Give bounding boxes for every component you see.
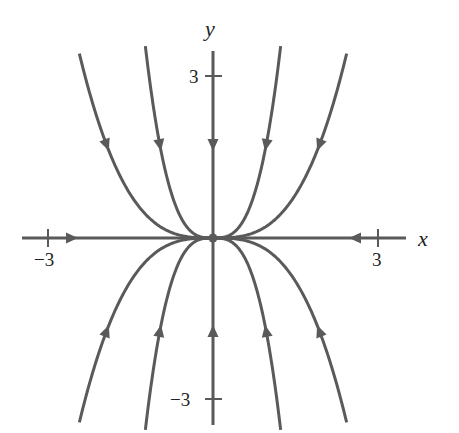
x-tick-label-neg3: −3: [34, 249, 54, 270]
x-axis-label: x: [417, 226, 428, 251]
y-tick-label-neg3: −3: [170, 389, 190, 410]
x-tick-label-pos3: 3: [372, 249, 382, 270]
y-tick-label-pos3: 3: [189, 66, 199, 87]
x-axis-right-arrow-icon: [66, 233, 78, 244]
phase-portrait-chart: y x −3 3 3 −3: [0, 0, 459, 433]
direction-arrow-icon: [262, 138, 273, 151]
axes: [22, 51, 406, 425]
trajectory-curve: [213, 54, 347, 238]
direction-arrow-icon: [262, 325, 273, 338]
labels: y x −3 3 3 −3: [34, 16, 428, 410]
y-axis-label: y: [203, 16, 215, 41]
trajectory-curve: [79, 238, 213, 422]
equilibrium-point: [209, 234, 218, 243]
direction-arrow-icon: [153, 325, 164, 338]
direction-arrow-icon: [99, 138, 109, 151]
y-axis-up-arrow-icon: [208, 325, 219, 337]
direction-arrow-icon: [99, 325, 109, 338]
direction-arrow-icon: [316, 138, 326, 151]
y-axis-down-arrow-icon: [208, 139, 219, 151]
trajectory-curve: [213, 238, 347, 422]
direction-arrow-icon: [153, 138, 164, 151]
x-axis-left-arrow-icon: [349, 233, 361, 244]
direction-arrow-icon: [316, 325, 326, 338]
